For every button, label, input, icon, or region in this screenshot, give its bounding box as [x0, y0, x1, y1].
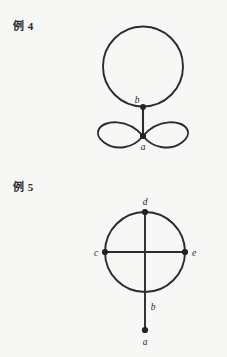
vertex-c-dot: [102, 249, 108, 255]
vertex-label-c-fig5: c: [94, 248, 99, 258]
vertex-d-dot: [142, 209, 148, 215]
vertex-label-a-fig4: a: [141, 142, 146, 152]
loop-edge-b-large-circle: [103, 27, 183, 107]
loop-edge-a-right-petal: [143, 122, 188, 147]
figure-label-example-4: 例 4: [13, 21, 34, 32]
graph-diagrams-svg: b a d c e b a: [0, 0, 227, 357]
vertex-a-dot: [140, 133, 146, 139]
vertex-label-a-fig5: a: [143, 337, 148, 347]
figure-example-4: b a: [98, 27, 188, 153]
page-canvas: 例 4 例 5 b a d c e b a: [0, 0, 227, 357]
vertex-label-b-fig4: b: [135, 95, 140, 105]
vertex-label-b-fig5: b: [151, 302, 156, 312]
vertex-b-dot: [140, 104, 146, 110]
vertex-label-e-fig5: e: [192, 248, 196, 258]
figure-label-example-5: 例 5: [13, 182, 34, 193]
figure-example-5: d c e b a: [94, 197, 196, 347]
loop-edge-a-left-petal: [98, 122, 143, 147]
vertex-e-dot: [182, 249, 188, 255]
vertex-label-d-fig5: d: [143, 197, 148, 207]
circle-edge-outer: [105, 212, 185, 292]
vertex-a-dot-fig5: [142, 327, 148, 333]
